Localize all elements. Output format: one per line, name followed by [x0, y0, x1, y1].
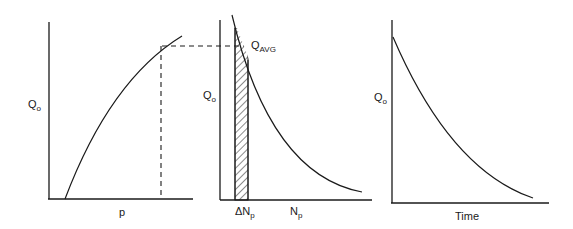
x-axis-label: Np: [290, 205, 303, 220]
delta-np-label: ΔNp: [235, 205, 255, 220]
x-axis-label: Time: [455, 210, 479, 222]
panel-qo-vs-np: QAVG Qo ΔNp Np: [203, 0, 372, 220]
diagram-canvas: Qo p QAVG Qo ΔNp Np Qo Time: [0, 0, 573, 229]
y-axis-label: Qo: [203, 89, 217, 104]
curve: [393, 37, 533, 198]
y-axis-label: Qo: [28, 98, 42, 113]
y-axis-label: Qo: [374, 91, 388, 106]
hatched-strip: [235, 28, 248, 200]
curve: [65, 36, 182, 199]
panel-qo-vs-time: Qo Time: [374, 20, 549, 222]
x-axis-label: p: [119, 206, 125, 218]
panel-qo-vs-p: Qo p: [28, 22, 246, 218]
qavg-label: QAVG: [251, 39, 276, 54]
